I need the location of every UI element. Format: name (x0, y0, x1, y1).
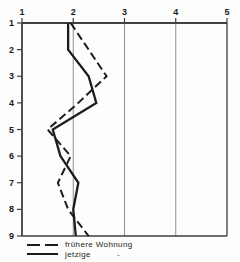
y-axis-label: 5 (9, 125, 14, 135)
y-axis-label: 9 (9, 231, 14, 241)
x-axis-label: 4 (173, 7, 178, 17)
solid-line-sample (27, 253, 58, 255)
y-axis-label: 3 (9, 71, 14, 81)
x-axis-label: 1 (19, 7, 24, 17)
series-line-fr-here-wohnung (48, 23, 107, 236)
legend-item-fruehere-wohnung: frühere Wohnung (27, 240, 133, 250)
x-axis-label: 5 (224, 7, 229, 17)
chart-figure: 12345123456789 frühere Wohnung jetzige - (0, 0, 240, 262)
y-axis-label: 6 (9, 151, 14, 161)
dashed-line-sample (27, 244, 58, 246)
legend-label-fruehere-wohnung: frühere Wohnung (65, 240, 133, 250)
y-axis-label: 2 (9, 45, 14, 55)
stray-scan-mark: - (117, 250, 120, 260)
legend: frühere Wohnung jetzige - (27, 240, 133, 259)
line-chart: 12345123456789 (0, 0, 240, 262)
y-axis-label: 7 (9, 178, 14, 188)
x-axis-label: 3 (122, 7, 127, 17)
y-axis-label: 4 (9, 98, 14, 108)
legend-label-jetzige: jetzige (65, 250, 91, 260)
legend-item-jetzige: jetzige - (27, 250, 133, 260)
series-line-jetzige (53, 23, 97, 236)
y-axis-label: 1 (9, 18, 14, 28)
y-axis-label: 8 (9, 204, 14, 214)
x-axis-label: 2 (71, 7, 76, 17)
